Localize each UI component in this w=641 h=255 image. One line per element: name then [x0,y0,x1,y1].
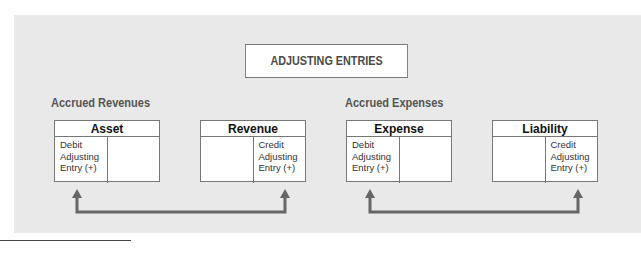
footer-rule [0,240,131,241]
arrow-head-icon [280,189,290,198]
arrow-head-icon [72,189,82,198]
arrow-head-icon [365,189,375,198]
arrow-head-icon [573,189,583,198]
arrow-connector-revenues [77,197,285,212]
arrow-connector-expenses [370,197,578,212]
